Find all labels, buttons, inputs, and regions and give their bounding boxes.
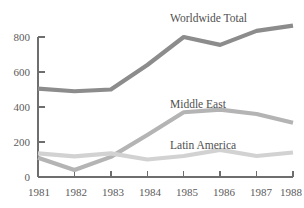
- x-axis-tick-label-1988: 1988: [280, 186, 302, 198]
- x-axis-tick-label-1984: 1984: [139, 186, 161, 198]
- y-axis-tick-label-400: 400: [0, 101, 30, 113]
- line-chart: 800 600 400 200 0 1981 1982 1983 1984 19…: [0, 0, 304, 208]
- x-axis-tick-label-1982: 1982: [65, 186, 87, 198]
- series-label-latin-america: Latin America: [170, 139, 236, 151]
- y-axis-tick-label-200: 200: [0, 136, 30, 148]
- y-axis-tick-label-800: 800: [0, 31, 30, 43]
- x-axis-tick-label-1985: 1985: [176, 186, 198, 198]
- x-axis-tick-label-1986: 1986: [213, 186, 235, 198]
- x-axis-tick-label-1983: 1983: [102, 186, 124, 198]
- chart-series-group: [38, 26, 293, 170]
- series-label-middle-east: Middle East: [170, 98, 226, 110]
- series-line-middle-east: [38, 110, 293, 170]
- x-axis-tick-label-1981: 1981: [28, 186, 50, 198]
- y-axis-tick-label-0: 0: [0, 171, 30, 183]
- y-axis-tick-label-600: 600: [0, 66, 30, 78]
- x-axis-tick-label-1987: 1987: [250, 186, 272, 198]
- series-line-latin-america: [38, 150, 293, 160]
- chart-plot-area: [0, 0, 304, 208]
- series-label-worldwide-total: Worldwide Total: [170, 12, 247, 24]
- series-line-worldwide-total: [38, 26, 293, 92]
